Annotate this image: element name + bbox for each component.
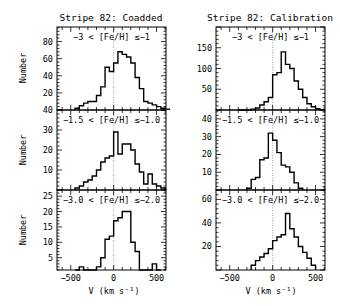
y-tick-label: 20 — [43, 88, 53, 98]
panel-label: −1.5 < [Fe/H] ≤−1.0 — [222, 115, 319, 125]
histogram-panel-0-0: 20406080−3 < [Fe/H] ≤−1 — [43, 27, 170, 110]
histogram-steps — [247, 133, 303, 190]
y-tick-label: 10 — [43, 237, 53, 247]
histogram-panel-0-1: 10203040−1.5 < [Fe/H] ≤−1.0 — [43, 105, 166, 190]
x-tick-label: −500 — [219, 273, 239, 283]
histogram-steps — [251, 214, 315, 270]
y-tick-label: 40 — [43, 71, 53, 81]
histogram-panel-0-2: 510152025−3.0 < [Fe/H] ≤−2.0 — [43, 190, 166, 270]
right-xlabel: V (km s⁻¹) — [245, 286, 296, 296]
panel-label: −3.0 < [Fe/H] ≤−2.0 — [63, 195, 160, 205]
histogram-panel-1-1: 10203040−1.5 < [Fe/H] ≤−1.0 — [202, 110, 325, 190]
panel-label: −3 < [Fe/H] ≤−1 — [73, 32, 150, 42]
y-tick-label: 40 — [202, 218, 212, 228]
histogram-panel-1-2: 204060−3.0 < [Fe/H] ≤−2.0 — [202, 190, 325, 270]
y-tick-label: 15 — [43, 222, 53, 232]
y-tick-label: 20 — [202, 241, 212, 251]
histogram-steps — [75, 52, 169, 110]
y-axis-label: Number — [18, 53, 28, 84]
y-tick-label: 30 — [202, 132, 212, 142]
y-tick-label: 60 — [43, 54, 53, 64]
right-title: Stripe 82: Calibration — [207, 12, 333, 23]
figure: Stripe 82: Coadded Stripe 82: Calibratio… — [0, 0, 340, 306]
x-tick-label: 0 — [111, 273, 116, 283]
y-tick-label: 100 — [197, 64, 212, 74]
y-tick-label: 5 — [48, 253, 53, 263]
left-title: Stripe 82: Coadded — [60, 12, 163, 23]
y-tick-label: 150 — [197, 43, 212, 53]
histogram-steps — [238, 52, 324, 110]
x-tick-label: −500 — [60, 273, 80, 283]
y-tick-label: 10 — [43, 165, 53, 175]
y-tick-label: 40 — [202, 114, 212, 124]
y-tick-label: 80 — [43, 37, 53, 47]
y-tick-label: 30 — [43, 125, 53, 135]
histogram-figure: Stripe 82: Coadded Stripe 82: Calibratio… — [0, 0, 340, 306]
panel-label: −3.0 < [Fe/H] ≤−2.0 — [222, 195, 319, 205]
panel-label: −3 < [Fe/H] ≤−1 — [232, 32, 309, 42]
x-tick-label: 0 — [270, 273, 275, 283]
left-xlabel: V (km s⁻¹) — [88, 286, 139, 296]
y-axis-label: Number — [18, 215, 28, 246]
y-tick-label: 20 — [43, 207, 53, 217]
y-axis-label: Number — [18, 135, 28, 166]
histogram-steps — [75, 132, 165, 190]
y-tick-label: 20 — [43, 145, 53, 155]
y-tick-label: 20 — [202, 149, 212, 159]
histogram-panel-1-0: 50100150−3 < [Fe/H] ≤−1 — [197, 27, 325, 110]
panel-label: −1.5 < [Fe/H] ≤−1.0 — [63, 115, 160, 125]
y-tick-label: 60 — [202, 194, 212, 204]
y-tick-label: 40 — [43, 105, 53, 115]
histogram-steps — [75, 212, 161, 270]
x-tick-label: 500 — [308, 273, 323, 283]
y-tick-label: 25 — [43, 191, 53, 201]
y-tick-label: 10 — [202, 167, 212, 177]
x-tick-label: 500 — [149, 273, 164, 283]
y-tick-label: 50 — [202, 84, 212, 94]
